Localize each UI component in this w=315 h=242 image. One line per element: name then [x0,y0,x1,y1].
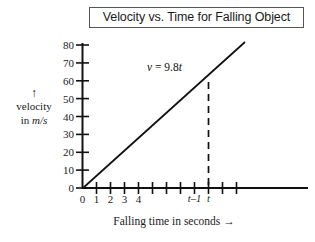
y-axis-label-unit: m/s [32,114,47,126]
y-axis-label-line1: velocity [16,100,51,112]
chart-figure: Velocity vs. Time for Falling Object [0,0,315,242]
equation-annotation: v = 9.8t [147,62,182,74]
x-axis-label: Falling time in seconds → [74,216,274,228]
equation-operator: = [152,61,164,73]
y-axis-label-line2: in [21,114,32,126]
equation-coefficient: 9.8 [164,61,178,73]
y-axis-arrow-icon: ↑ [4,86,64,100]
y-axis-label: ↑ velocity in m/s [4,86,64,127]
equation-variable: t [179,61,182,73]
